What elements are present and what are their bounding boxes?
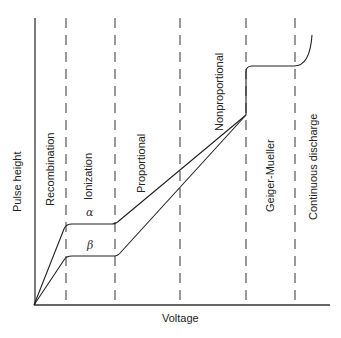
region-label-nonproportional: Nonproportional — [213, 53, 225, 131]
region-boundaries — [66, 18, 295, 305]
region-label-recombination: Recombination — [44, 133, 56, 206]
region-label-continuous-discharge: Continuous discharge — [307, 114, 319, 220]
region-label-geiger-mueller: Geiger-Mueller — [264, 139, 276, 212]
region-label-proportional: Proportional — [135, 134, 147, 193]
geiger-continuous-curve — [246, 35, 312, 115]
x-axis-label: Voltage — [162, 312, 199, 324]
detector-response-diagram: α β Recombination Ionization Proportiona… — [0, 0, 341, 338]
alpha-label: α — [86, 206, 94, 219]
y-axis-label: Pulse height — [11, 151, 23, 212]
beta-label: β — [86, 239, 93, 252]
region-label-ionization: Ionization — [82, 153, 94, 200]
